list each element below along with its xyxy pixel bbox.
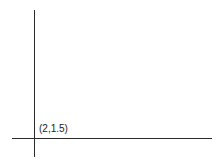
horizontal-axis-line — [12, 138, 212, 139]
intersection-coordinate-label: (2,1.5) — [39, 123, 68, 135]
vertical-axis-line — [34, 10, 35, 157]
